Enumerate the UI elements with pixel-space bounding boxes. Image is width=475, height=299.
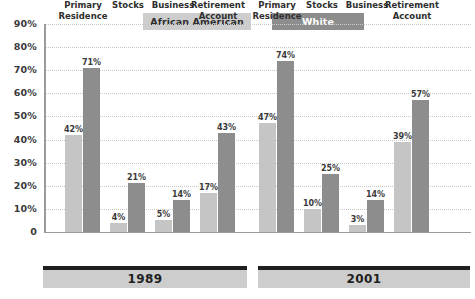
bar-white: 14% [367, 200, 384, 232]
bar-value-label: 39% [393, 132, 412, 141]
x-axis-line [44, 232, 471, 233]
y-axis-tick-label: 40% [3, 134, 37, 145]
bar-white: 14% [173, 200, 190, 232]
bar-white: 25% [322, 174, 339, 232]
category-label-line: Residence [246, 11, 308, 22]
x-axis-category-label: RetirementAccount [187, 0, 249, 22]
bar-value-label: 14% [172, 190, 191, 199]
bar-value-label: 47% [258, 113, 277, 122]
category-label-line: Retirement [381, 0, 443, 11]
bar-african-american: 4% [110, 223, 127, 232]
y-axis-labels: 90%80%70%60%50%40%30%20%10%0 [0, 24, 44, 234]
bar-pair: 4%21% [109, 24, 147, 232]
bar-african-american: 10% [304, 209, 321, 232]
bar-value-label: 43% [217, 123, 236, 132]
year-band-2001: 2001 [258, 266, 470, 288]
category-label-line: Account [381, 11, 443, 22]
bar-pair: 3%14% [348, 24, 386, 232]
bar-value-label: 74% [276, 51, 295, 60]
year-band-1989: 1989 [43, 266, 247, 288]
y-axis-tick-label: 10% [3, 203, 37, 214]
bar-white: 43% [218, 133, 235, 232]
bar-value-label: 3% [351, 215, 365, 224]
y-axis-tick-label: 20% [3, 180, 37, 191]
chart-container: African American White 90%80%70%60%50%40… [0, 0, 475, 299]
bar-value-label: 17% [199, 183, 218, 192]
y-axis-tick-label: 80% [3, 41, 37, 52]
bar-value-label: 71% [82, 58, 101, 67]
bar-pair: 42%71% [64, 24, 102, 232]
bar-value-label: 25% [321, 164, 340, 173]
y-axis-tick-label: 0 [3, 226, 37, 237]
y-axis-tick-label: 60% [3, 87, 37, 98]
category-label-line: Retirement [187, 0, 249, 11]
bar-white: 21% [128, 183, 145, 232]
bar-group-2001: 47%74%10%25%3%14%39%57% [258, 24, 438, 232]
bar-value-label: 4% [112, 213, 126, 222]
bar-pair: 10%25% [303, 24, 341, 232]
bar-value-label: 14% [366, 190, 385, 199]
y-axis-tick-label: 50% [3, 110, 37, 121]
year-band-label: 1989 [43, 270, 247, 288]
bar-value-label: 5% [157, 210, 171, 219]
bar-pair: 39%57% [393, 24, 431, 232]
bar-african-american: 42% [65, 135, 82, 232]
bar-african-american: 47% [259, 123, 276, 232]
category-label-line: Account [187, 11, 249, 22]
bar-pair: 17%43% [199, 24, 237, 232]
bar-value-label: 57% [411, 90, 430, 99]
bar-white: 57% [412, 100, 429, 232]
bar-african-american: 39% [394, 142, 411, 232]
bar-value-label: 42% [64, 125, 83, 134]
bar-white: 71% [83, 68, 100, 232]
y-axis-tick-label: 70% [3, 64, 37, 75]
y-axis-tick-label: 30% [3, 157, 37, 168]
bar-pair: 47%74% [258, 24, 296, 232]
bar-value-label: 10% [303, 199, 322, 208]
y-axis-tick-label: 90% [3, 18, 37, 29]
x-axis-category-label: RetirementAccount [381, 0, 443, 22]
y-axis-line [44, 24, 46, 233]
bar-group-1989: 42%71%4%21%5%14%17%43% [64, 24, 244, 232]
year-band-label: 2001 [258, 270, 470, 288]
category-label-line: Residence [52, 11, 114, 22]
bar-value-label: 21% [127, 173, 146, 182]
bar-pair: 5%14% [154, 24, 192, 232]
bar-african-american: 5% [155, 220, 172, 232]
bar-african-american: 17% [200, 193, 217, 232]
bar-african-american: 3% [349, 225, 366, 232]
plot-area: 42%71%4%21%5%14%17%43%47%74%10%25%3%14%3… [44, 24, 471, 232]
bar-white: 74% [277, 61, 294, 232]
